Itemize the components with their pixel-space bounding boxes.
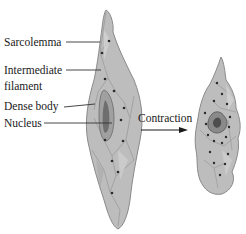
relaxed-cell xyxy=(86,10,142,229)
contraction-arrow xyxy=(141,127,188,133)
sarcolemma-label: Sarcolemma xyxy=(4,36,61,48)
intermediate-filament-label-line2: filament xyxy=(4,80,42,92)
contracted-cell xyxy=(195,57,240,194)
intermediate-filament-label-line1: Intermediate xyxy=(4,64,62,76)
nucleus-label: Nucleus xyxy=(4,117,42,129)
dense-body-label: Dense body xyxy=(4,100,59,112)
arrow-head-icon xyxy=(179,127,188,133)
contraction-label: Contraction xyxy=(138,112,192,124)
